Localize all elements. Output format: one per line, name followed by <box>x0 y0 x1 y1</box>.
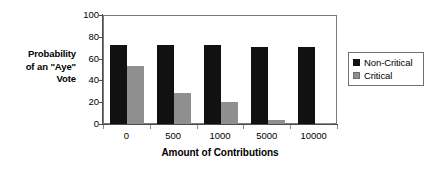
x-axis-line <box>102 124 338 125</box>
x-tick-label: 10000 <box>288 130 340 141</box>
y-tick-label: 60 <box>74 54 99 64</box>
x-tick-label: 1000 <box>194 130 246 141</box>
legend-swatch-critical-icon <box>353 72 360 79</box>
bar-critical-0 <box>127 66 144 125</box>
y-axis-title-line-3: Vote <box>2 73 76 86</box>
legend-item-non-critical: Non-Critical <box>353 56 420 69</box>
bar-non-critical-5000 <box>251 47 268 125</box>
x-tick-mark <box>337 125 338 129</box>
legend-item-critical: Critical <box>353 69 420 82</box>
y-tick-label: 80 <box>74 32 99 42</box>
y-axis-title: Probability of an "Aye" Vote <box>2 48 76 86</box>
bar-non-critical-500 <box>157 45 174 125</box>
y-tick-label: 20 <box>74 97 99 107</box>
legend-label-non-critical: Non-Critical <box>364 57 412 68</box>
bars-layer <box>104 16 338 125</box>
bar-chart-figure: Probability of an "Aye" Vote 02040608010… <box>0 0 430 177</box>
legend-label-critical: Critical <box>364 70 392 81</box>
plot-area <box>103 15 337 124</box>
bar-non-critical-1000 <box>204 45 221 125</box>
bar-non-critical-10000 <box>298 47 315 125</box>
y-axis-title-line-1: Probability <box>2 48 76 61</box>
y-axis-title-line-2: of an "Aye" <box>2 61 76 74</box>
x-tick-label: 500 <box>147 130 199 141</box>
legend-swatch-non-critical-icon <box>353 59 360 66</box>
chart-legend: Non-Critical Critical <box>348 52 424 86</box>
bar-non-critical-0 <box>110 45 127 125</box>
x-axis-title: Amount of Contributions <box>103 147 337 158</box>
y-tick-label: 100 <box>74 10 99 20</box>
bar-critical-1000 <box>221 102 238 125</box>
x-tick-mark <box>150 125 151 129</box>
y-tick-label: 0 <box>74 119 99 129</box>
x-tick-label: 5000 <box>241 130 293 141</box>
x-tick-mark <box>197 125 198 129</box>
x-tick-mark <box>290 125 291 129</box>
x-tick-label: 0 <box>100 130 152 141</box>
bar-critical-500 <box>174 93 191 125</box>
x-tick-mark <box>243 125 244 129</box>
y-tick-label: 40 <box>74 75 99 85</box>
x-tick-mark <box>103 125 104 129</box>
